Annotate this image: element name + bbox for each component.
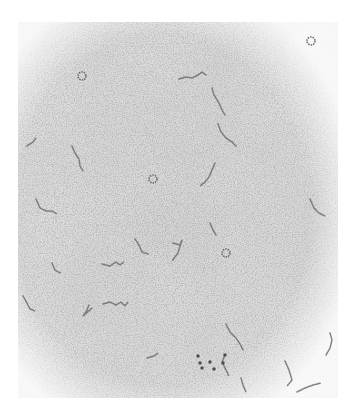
dot-particle	[198, 361, 201, 364]
dot-particle	[223, 353, 226, 356]
dot-particle	[196, 354, 199, 357]
dot-particle	[221, 361, 224, 364]
dot-particle	[200, 366, 203, 369]
micrograph-frame	[0, 0, 355, 411]
field	[18, 22, 338, 398]
dot-particle	[208, 360, 211, 363]
micrograph-image	[0, 0, 355, 411]
dot-particle	[212, 367, 215, 370]
